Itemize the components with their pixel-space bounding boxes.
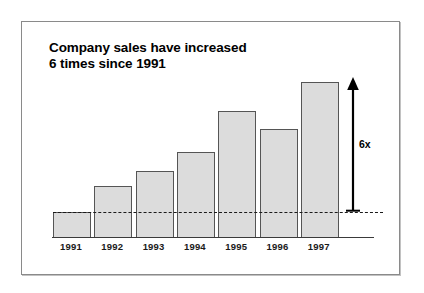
reference-line bbox=[53, 212, 383, 213]
tick-label-1992: 1992 bbox=[93, 241, 131, 252]
x-axis-line bbox=[52, 237, 374, 238]
growth-multiplier-label: 6x bbox=[359, 138, 371, 150]
bar-1993[interactable] bbox=[136, 171, 174, 238]
bar-1995[interactable] bbox=[218, 111, 256, 238]
tick-label-1993: 1993 bbox=[135, 241, 173, 252]
tick-label-1995: 1995 bbox=[217, 241, 255, 252]
tick-label-1991: 1991 bbox=[52, 241, 90, 252]
chart-frame: Company sales have increased 6 times sin… bbox=[21, 21, 400, 275]
bar-1994[interactable] bbox=[177, 152, 215, 238]
tick-label-1994: 1994 bbox=[176, 241, 214, 252]
plot-area: 1991 1992 1993 1994 1995 1996 1997 6x bbox=[22, 22, 401, 276]
tick-label-1997: 1997 bbox=[300, 241, 338, 252]
tick-label-1996: 1996 bbox=[259, 241, 297, 252]
bar-1996[interactable] bbox=[260, 129, 298, 238]
bar-1991[interactable] bbox=[53, 212, 91, 238]
bar-1997[interactable] bbox=[301, 82, 339, 238]
